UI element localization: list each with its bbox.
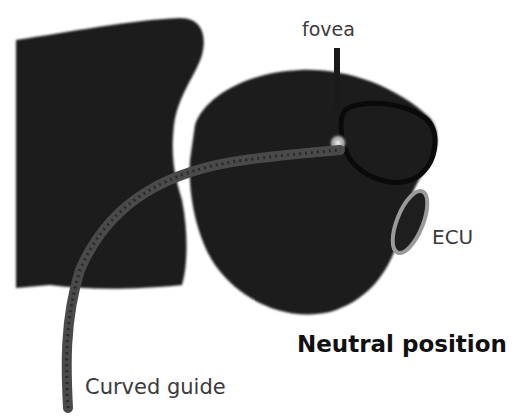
ulna-shape	[16, 18, 204, 289]
diagram-canvas: fovea ECU Curved guide Neutral position	[0, 0, 528, 418]
ecu-label: ECU	[432, 225, 473, 249]
curved-guide-label: Curved guide	[85, 375, 226, 399]
fovea-label: fovea	[302, 18, 355, 40]
fovea-pointer	[334, 48, 340, 110]
figure-title: Neutral position	[297, 331, 507, 357]
